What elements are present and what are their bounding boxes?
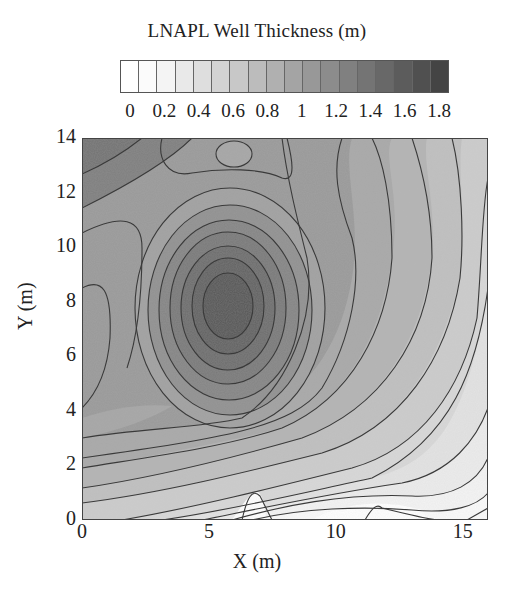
y-tick-label: 2 — [46, 452, 76, 475]
colorbar-cell — [394, 61, 412, 92]
x-tick-label: 5 — [204, 520, 214, 543]
colorbar-cell — [157, 61, 175, 92]
colorbar-tick-label: 1.2 — [324, 100, 348, 122]
colorbar-cell — [139, 61, 157, 92]
y-tick-label: 6 — [46, 343, 76, 366]
y-tick-label: 12 — [46, 180, 76, 203]
colorbar-cell — [121, 61, 139, 92]
x-tick-label: 15 — [453, 520, 473, 543]
colorbar-cell — [340, 61, 358, 92]
colorbar-cell — [249, 61, 267, 92]
colorbar-tick-label: 1.4 — [358, 100, 382, 122]
y-tick-label: 8 — [46, 289, 76, 312]
y-tick-label: 10 — [46, 234, 76, 257]
colorbar-cell — [321, 61, 339, 92]
y-tick-label: 4 — [46, 398, 76, 421]
colorbar-tick-label: 1 — [297, 100, 307, 122]
colorbar-cell — [176, 61, 194, 92]
contour-plot — [82, 138, 488, 520]
colorbar-tick-label: 0.8 — [255, 100, 279, 122]
colorbar-tick-label: 0.6 — [221, 100, 245, 122]
colorbar-tick-label: 0 — [125, 100, 135, 122]
colorbar-cell — [358, 61, 376, 92]
colorbar-tick-label: 0.2 — [152, 100, 176, 122]
colorbar-cell — [267, 61, 285, 92]
y-tick-label: 0 — [46, 507, 76, 530]
colorbar — [120, 60, 449, 93]
chart-title: LNAPL Well Thickness (m) — [0, 20, 514, 42]
y-axis-label: Y (m) — [14, 282, 37, 330]
colorbar-cell — [431, 61, 448, 92]
colorbar-cell — [285, 61, 303, 92]
colorbar-cell — [194, 61, 212, 92]
colorbar-cell — [376, 61, 394, 92]
colorbar-tick-label: 1.8 — [427, 100, 451, 122]
colorbar-cell — [230, 61, 248, 92]
colorbar-cell — [212, 61, 230, 92]
x-tick-label: 10 — [326, 520, 346, 543]
colorbar-tick-label: 0.4 — [187, 100, 211, 122]
x-axis-label: X (m) — [0, 550, 514, 573]
contour-plot-area — [82, 138, 488, 520]
colorbar-ticks: 00.20.40.60.811.21.41.61.8 — [0, 100, 514, 124]
x-tick-label: 0 — [77, 520, 87, 543]
colorbar-cell — [413, 61, 431, 92]
y-tick-label: 14 — [46, 125, 76, 148]
colorbar-cell — [303, 61, 321, 92]
colorbar-tick-label: 1.6 — [393, 100, 417, 122]
